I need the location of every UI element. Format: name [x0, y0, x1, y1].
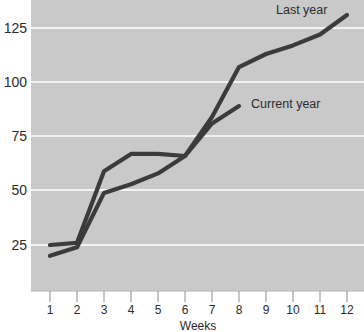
x-tick-label-5: 5 — [155, 303, 162, 317]
x-tick-label-12: 12 — [340, 303, 354, 317]
series-annotation-current-year: Current year — [251, 97, 320, 111]
x-tick-label-9: 9 — [263, 303, 270, 317]
y-tick-label-125: 125 — [4, 20, 28, 36]
x-axis-title: Weeks — [180, 319, 216, 332]
x-tick-label-10: 10 — [286, 303, 300, 317]
x-tick-label-1: 1 — [47, 303, 54, 317]
x-tick-label-2: 2 — [74, 303, 81, 317]
x-tick-label-4: 4 — [128, 303, 135, 317]
chart-canvas: 125 100 75 50 25 1 — [0, 0, 364, 332]
line-chart: 125 100 75 50 25 1 — [0, 0, 364, 332]
plot-area-background — [31, 0, 364, 291]
x-tick-label-3: 3 — [101, 303, 108, 317]
y-tick-label-25: 25 — [11, 237, 27, 253]
x-tick-label-11: 11 — [314, 303, 327, 317]
x-tick-label-6: 6 — [182, 303, 189, 317]
y-tick-label-100: 100 — [4, 74, 28, 90]
x-tick-label-7: 7 — [209, 303, 216, 317]
y-tick-label-50: 50 — [11, 182, 27, 198]
x-axis-ticks — [50, 291, 347, 302]
series-annotation-last-year: Last year — [276, 3, 327, 17]
x-tick-label-8: 8 — [236, 303, 243, 317]
x-axis-labels: 1 2 3 4 5 6 7 8 9 10 11 12 — [47, 303, 354, 317]
y-axis-labels: 125 100 75 50 25 — [4, 20, 28, 253]
y-tick-label-75: 75 — [11, 128, 27, 144]
